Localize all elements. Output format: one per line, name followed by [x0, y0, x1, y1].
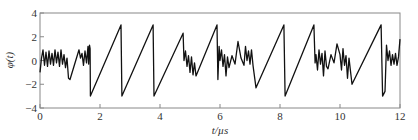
- x-tick-label: 6: [217, 110, 223, 122]
- y-tick-label: 2: [32, 31, 38, 43]
- x-tick-label: 12: [395, 110, 406, 122]
- x-tick-label: 8: [277, 110, 283, 122]
- chart: 024681012−4−2024 t/µs φ(t): [0, 0, 418, 140]
- series-layer: [40, 25, 400, 96]
- y-axis-title: φ(t): [3, 51, 16, 68]
- y-tick-label: −2: [25, 78, 37, 90]
- x-tick-label: 4: [157, 110, 163, 122]
- x-tick-label: 10: [335, 110, 347, 122]
- x-tick-label: 0: [37, 110, 43, 122]
- y-tick-label: 4: [32, 7, 38, 19]
- x-axis-title: t/µs: [212, 124, 229, 136]
- y-tick-label: 0: [32, 55, 38, 67]
- y-tick-label: −4: [25, 102, 37, 114]
- series-line-phi-t-: [40, 25, 400, 96]
- x-tick-label: 2: [97, 110, 103, 122]
